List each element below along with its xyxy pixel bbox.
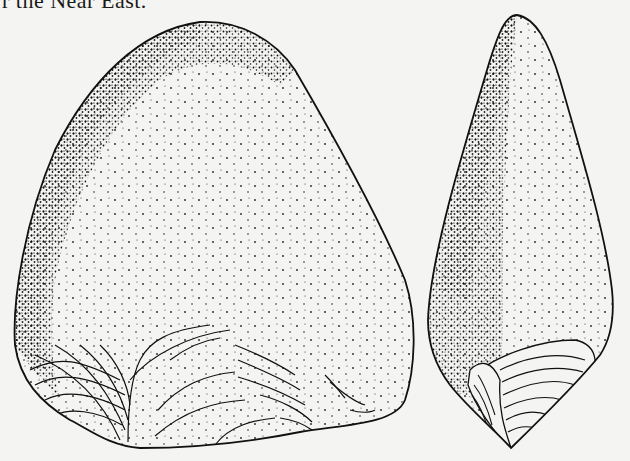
- face-view: [0, 0, 420, 461]
- profile-view: [420, 0, 630, 461]
- handaxe-illustration: [0, 0, 630, 461]
